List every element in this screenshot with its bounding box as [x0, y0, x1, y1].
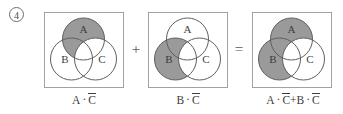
caption-term-c-bar-2: C	[312, 93, 320, 106]
caption-term-c-bar: C	[192, 93, 200, 106]
caption-dot: ·	[304, 94, 312, 106]
set-label-c: C	[202, 53, 209, 65]
set-label-c: C	[98, 53, 105, 65]
set-label-a: A	[80, 23, 88, 35]
venn-diagram-a-not-c: A B C	[45, 13, 122, 86]
caption-dot: ·	[184, 94, 192, 106]
venn-panel-b-not-c: A B C	[148, 12, 228, 88]
venn-diagram-b-not-c: A B C	[149, 13, 226, 86]
caption-term-c-bar: C	[88, 93, 96, 106]
caption-a-not-c: A·C	[44, 93, 124, 107]
item-number-badge: 4	[9, 7, 24, 22]
set-label-b: B	[269, 53, 276, 65]
caption-b-not-c: B·C	[148, 93, 228, 107]
caption-union: A·C+B·C	[247, 93, 339, 107]
caption-dot: ·	[80, 94, 88, 106]
set-label-b: B	[165, 53, 172, 65]
operator-equals: =	[229, 42, 249, 57]
caption-term-b: B	[297, 95, 305, 107]
operator-plus: +	[126, 42, 146, 57]
caption-term-b: B	[176, 95, 184, 107]
set-label-a: A	[288, 23, 296, 35]
caption-term-a: A	[72, 95, 80, 107]
venn-diagram-union: A B C	[253, 13, 330, 86]
caption-term-a: A	[266, 95, 274, 107]
venn-identity-figure: 4 A B C A·C +	[0, 0, 343, 114]
set-label-a: A	[184, 23, 192, 35]
caption-term-c-bar: C	[282, 93, 290, 106]
set-label-c: C	[306, 53, 313, 65]
venn-panel-a-not-c: A B C	[44, 12, 124, 88]
venn-panel-union: A B C	[252, 12, 332, 88]
caption-dot: ·	[275, 94, 283, 106]
set-label-b: B	[61, 53, 68, 65]
